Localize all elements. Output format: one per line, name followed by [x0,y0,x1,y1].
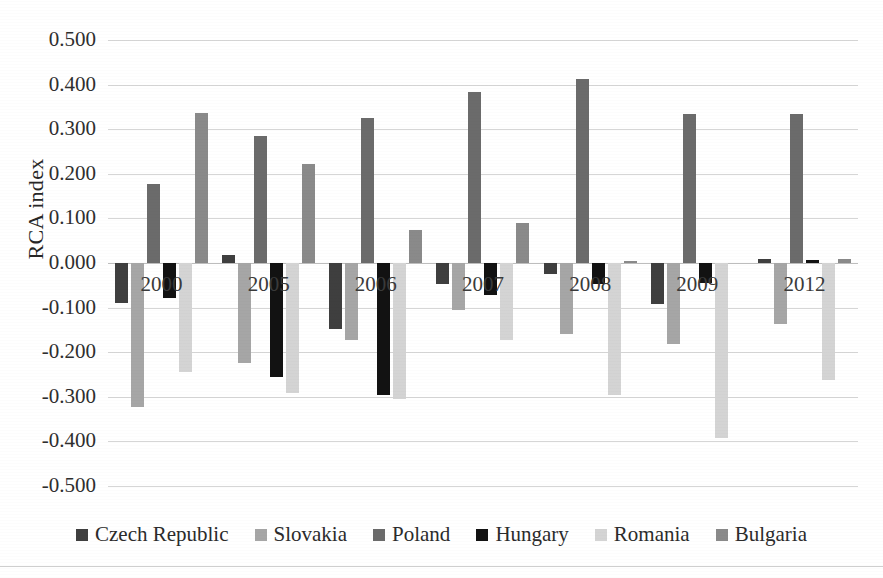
y-tick-label: -0.300 [0,386,96,407]
legend-label: Slovakia [274,524,348,545]
y-tick-label: 0.100 [0,207,96,228]
y-tick-label: 0.500 [0,29,96,50]
category-label-2012: 2012 [751,274,858,295]
bottom-divider [0,566,883,567]
legend-label: Hungary [495,524,568,545]
legend-label: Romania [614,524,690,545]
bar-bulgaria-2006 [409,230,422,263]
category-label-2005: 2005 [215,274,322,295]
legend-item-poland[interactable]: Poland [373,524,450,545]
chart-legend: Czech RepublicSlovakiaPolandHungaryRoman… [0,524,883,545]
legend-swatch-icon [255,529,267,541]
bar-poland-2012 [790,114,803,263]
bar-group-2008: 2008 [537,40,644,486]
category-label-2006: 2006 [322,274,429,295]
bar-bulgaria-2008 [624,261,637,263]
bar-czech-republic-2008 [544,263,557,274]
rca-index-bar-chart: RCA index 0.5000.4000.3000.2000.1000.000… [0,0,883,578]
y-tick-label: 0.300 [0,118,96,139]
legend-item-slovakia[interactable]: Slovakia [255,524,348,545]
bar-group-2005: 2005 [215,40,322,486]
bar-group-2006: 2006 [322,40,429,486]
bar-group-2000: 2000 [108,40,215,486]
y-axis-tick-labels: 0.5000.4000.3000.2000.1000.000-0.100-0.2… [0,0,108,578]
legend-item-hungary[interactable]: Hungary [476,524,568,545]
bar-poland-2000 [147,184,160,263]
bar-poland-2006 [361,118,374,263]
bar-group-2012: 2012 [751,40,858,486]
category-label-2009: 2009 [644,274,751,295]
legend-label: Czech Republic [95,524,229,545]
y-tick-label: -0.100 [0,297,96,318]
legend-item-romania[interactable]: Romania [595,524,690,545]
category-label-2008: 2008 [537,274,644,295]
bar-poland-2005 [254,136,267,263]
category-label-2000: 2000 [108,274,215,295]
bar-bulgaria-2012 [838,259,851,263]
y-tick-label: -0.200 [0,341,96,362]
legend-item-czech-republic[interactable]: Czech Republic [76,524,229,545]
bar-bulgaria-2000 [195,113,208,263]
bar-poland-2007 [468,92,481,263]
y-tick-label: 0.400 [0,74,96,95]
bar-czech-republic-2012 [758,259,771,263]
bar-bulgaria-2007 [516,223,529,263]
legend-label: Bulgaria [735,524,807,545]
legend-label: Poland [392,524,450,545]
bar-czech-republic-2005 [222,255,235,263]
bar-group-2007: 2007 [429,40,536,486]
bar-poland-2008 [576,79,589,263]
bar-poland-2009 [683,114,696,263]
gridline [108,486,858,487]
legend-swatch-icon [716,529,728,541]
y-tick-label: -0.400 [0,430,96,451]
legend-swatch-icon [595,529,607,541]
legend-swatch-icon [76,529,88,541]
y-tick-label: 0.000 [0,252,96,273]
category-label-2007: 2007 [429,274,536,295]
legend-swatch-icon [373,529,385,541]
plot-area: 2000200520062007200820092012 [108,40,858,486]
bar-hungary-2012 [806,260,819,263]
bar-group-2009: 2009 [644,40,751,486]
legend-swatch-icon [476,529,488,541]
bar-bulgaria-2005 [302,164,315,263]
bar-czech-republic-2006 [329,263,342,329]
y-tick-label: -0.500 [0,475,96,496]
y-tick-label: 0.200 [0,163,96,184]
legend-item-bulgaria[interactable]: Bulgaria [716,524,807,545]
